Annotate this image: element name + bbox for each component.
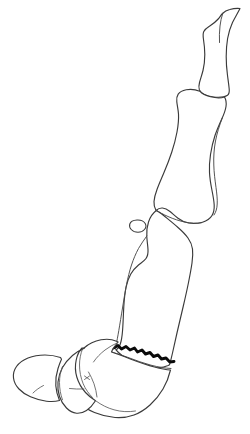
figure-canvas <box>0 0 250 434</box>
sesamoid-bone-outline <box>130 220 146 232</box>
anatomical-figure <box>0 0 250 434</box>
sesamoid-bone <box>130 220 146 232</box>
